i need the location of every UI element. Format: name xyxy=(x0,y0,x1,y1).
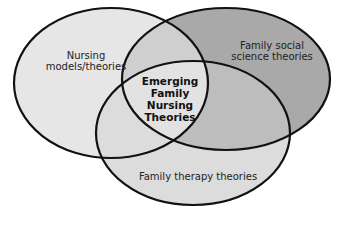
social-label-line-2: science theories xyxy=(222,51,322,62)
nursing-label-line-2: models/theories xyxy=(36,61,136,72)
therapy-label: Family therapy theories xyxy=(133,171,263,182)
center-label-line-3: Nursing xyxy=(138,99,202,111)
nursing-label: Nursing models/theories xyxy=(36,50,136,72)
center-label-line-4: Theories xyxy=(138,111,202,123)
center-label-line-1: Emerging xyxy=(138,75,202,87)
center-label-line-2: Family xyxy=(138,87,202,99)
social-label-line-1: Family social xyxy=(222,40,322,51)
center-label: Emerging Family Nursing Theories xyxy=(138,75,202,123)
social-label: Family social science theories xyxy=(222,40,322,62)
therapy-label-line-1: Family therapy theories xyxy=(133,171,263,182)
nursing-label-line-1: Nursing xyxy=(36,50,136,61)
